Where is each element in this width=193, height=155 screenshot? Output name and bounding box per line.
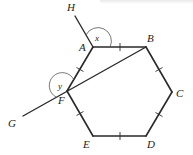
- label-d: D: [146, 138, 155, 150]
- label-e: E: [82, 138, 90, 150]
- angle-y-label: y: [57, 81, 62, 91]
- label-b: B: [147, 32, 154, 44]
- line-bg: [23, 47, 146, 116]
- hexagon-diagram: x y H A B C D E F G: [0, 0, 193, 155]
- label-h: H: [66, 1, 76, 13]
- angle-x-label: x: [94, 33, 99, 43]
- label-c: C: [176, 87, 184, 99]
- label-a: A: [78, 41, 86, 53]
- label-f: F: [57, 94, 65, 106]
- label-g: G: [8, 117, 16, 129]
